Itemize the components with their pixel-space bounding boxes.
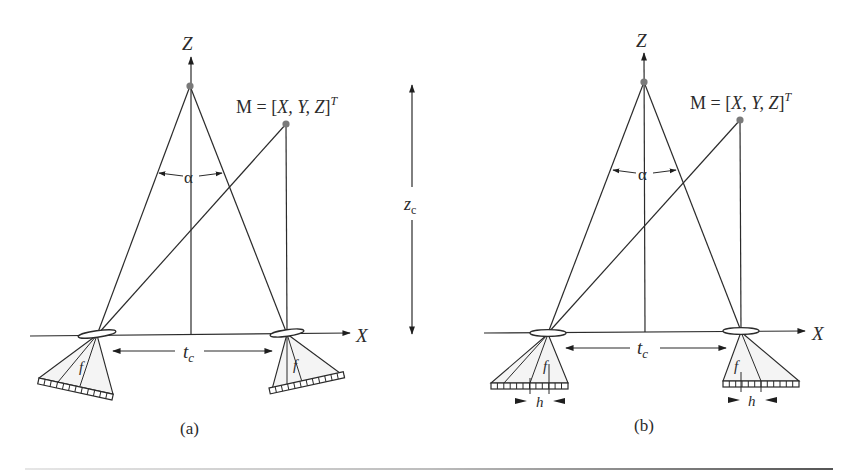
right-lens-b [723, 328, 759, 335]
panel-a: f f X Z [30, 33, 369, 438]
h-arrow-right-right-b [765, 397, 777, 403]
alpha-arrow-left-a [159, 173, 183, 176]
alpha-label-b: α [638, 165, 647, 184]
point-m-b [736, 116, 743, 123]
point-m-label-b: M = [X, Y, Z]T [690, 90, 793, 113]
left-view-ray-b [548, 82, 644, 333]
panel-b: f h f h X [484, 30, 825, 435]
h-arrow-right-b [553, 398, 565, 404]
baseline-label-a: tc [183, 341, 194, 365]
z-axis-label-b: Z [636, 30, 647, 51]
shift-label-left-b: h [536, 394, 544, 410]
bottom-rule [25, 468, 833, 470]
m-projection-a [286, 124, 287, 333]
alpha-label-a: α [184, 168, 193, 187]
baseline-label-b: tc [637, 337, 648, 361]
zc-label: zc [403, 194, 416, 217]
left-camera-a: f [38, 335, 114, 400]
alpha-arrow-left-b [613, 170, 636, 173]
right-camera-b: f h [723, 332, 799, 409]
x-axis-label-a: X [355, 325, 369, 346]
convergence-point-a [186, 82, 193, 89]
m-projection-b [740, 120, 741, 331]
right-camera-a: f [269, 334, 345, 394]
z-axis-label-a: Z [182, 33, 193, 54]
right-lens-a [270, 327, 305, 338]
left-lens-b [530, 330, 566, 337]
convergence-distance-indicator: zc [403, 85, 416, 334]
left-optical-axis-a [97, 86, 190, 335]
left-camera-b: f h [491, 334, 568, 410]
h-arrow-left-right-b [728, 397, 740, 403]
convergence-point-b [640, 78, 647, 85]
caption-b: (b) [634, 416, 654, 435]
caption-a: (a) [180, 419, 199, 438]
point-m-label-a: M = [X, Y, Z]T [236, 94, 339, 117]
right-optical-axis-a [190, 86, 287, 334]
stereo-camera-figure: f f X Z [0, 0, 856, 471]
shift-label-right-b: h [748, 393, 756, 409]
alpha-arrow-right-b [653, 170, 676, 173]
right-view-ray-b [644, 82, 741, 331]
x-axis-label-b: X [811, 323, 825, 344]
h-arrow-left-b [515, 398, 527, 404]
z-axis-b [644, 53, 645, 332]
alpha-arrow-right-a [199, 173, 222, 176]
left-frustum-b [491, 334, 568, 383]
point-m-a [282, 120, 289, 127]
